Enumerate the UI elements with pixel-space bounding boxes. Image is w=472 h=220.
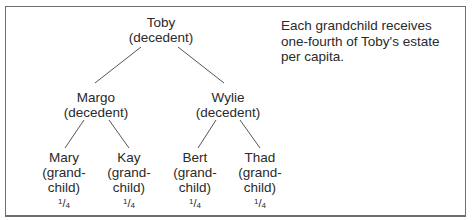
- share-numerator: 1: [254, 197, 258, 206]
- edge-wylie-bert: [198, 120, 216, 148]
- node-role: (decedent): [64, 105, 129, 120]
- edge-margo-kay: [109, 120, 129, 148]
- node-wylie: Wylie (decedent): [196, 90, 261, 120]
- share-fraction: 1/4: [173, 195, 217, 213]
- node-name: Bert: [173, 150, 217, 165]
- node-mary: Mary (grand- child) 1/4: [42, 150, 86, 213]
- node-bert: Bert (grand- child) 1/4: [173, 150, 217, 213]
- share-denominator: 4: [262, 201, 266, 210]
- node-thad: Thad (grand- child) 1/4: [238, 150, 282, 213]
- node-kay: Kay (grand- child) 1/4: [107, 150, 151, 213]
- share-denominator: 4: [131, 201, 135, 210]
- node-name: Mary: [42, 150, 86, 165]
- node-role: (grand-: [238, 165, 282, 180]
- node-role: (grand-: [42, 165, 86, 180]
- node-role: child): [238, 180, 282, 195]
- node-role: (decedent): [129, 30, 194, 45]
- edge-toby-margo: [95, 47, 141, 83]
- node-role: (grand-: [173, 165, 217, 180]
- share-numerator: 1: [123, 197, 127, 206]
- node-role: child): [107, 180, 151, 195]
- node-role: (grand-: [107, 165, 151, 180]
- node-margo: Margo (decedent): [64, 90, 129, 120]
- share-fraction: 1/4: [107, 195, 151, 213]
- share-numerator: 1: [189, 197, 193, 206]
- node-name: Kay: [107, 150, 151, 165]
- node-name: Toby: [129, 15, 194, 30]
- share-fraction: 1/4: [42, 195, 86, 213]
- node-role: child): [173, 180, 217, 195]
- share-denominator: 4: [66, 201, 70, 210]
- edge-wylie-thad: [240, 120, 260, 148]
- node-role: child): [42, 180, 86, 195]
- node-name: Margo: [64, 90, 129, 105]
- edge-toby-wylie: [178, 47, 224, 83]
- share-numerator: 1: [58, 197, 62, 206]
- node-toby: Toby (decedent): [129, 15, 194, 45]
- explanatory-note: Each grandchild receives one-fourth of T…: [281, 18, 461, 65]
- node-role: (decedent): [196, 105, 261, 120]
- share-denominator: 4: [197, 201, 201, 210]
- share-fraction: 1/4: [238, 195, 282, 213]
- edge-margo-mary: [65, 120, 84, 148]
- node-name: Wylie: [196, 90, 261, 105]
- node-name: Thad: [238, 150, 282, 165]
